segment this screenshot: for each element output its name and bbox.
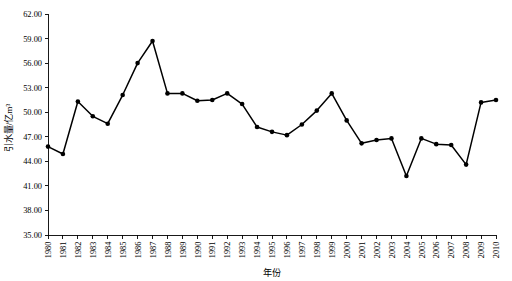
x-tick-label: 2005	[418, 242, 427, 259]
data-point-marker	[285, 133, 290, 138]
y-axis: 35.0038.0041.0044.0047.0050.0053.0056.00…	[23, 10, 48, 240]
x-tick-label: 1990	[194, 242, 203, 259]
x-tick-label: 1999	[328, 242, 337, 259]
x-tick-label: 2006	[432, 242, 441, 259]
data-point-marker	[344, 118, 349, 123]
x-tick-label: 1991	[208, 242, 217, 259]
data-point-marker	[225, 91, 230, 96]
y-tick-label: 53.00	[23, 84, 42, 93]
data-point-marker	[315, 108, 320, 113]
data-point-marker	[46, 144, 51, 149]
data-point-marker	[150, 39, 155, 44]
data-point-marker	[120, 93, 125, 98]
data-point-marker	[449, 143, 454, 148]
y-tick-label: 62.00	[23, 10, 42, 19]
data-point-marker	[479, 100, 484, 105]
x-tick-label: 2004	[403, 241, 412, 259]
data-point-marker	[329, 91, 334, 96]
x-tick-label: 1989	[179, 242, 188, 259]
y-tick-label: 59.00	[23, 35, 42, 44]
data-point-marker	[404, 174, 409, 179]
data-point-marker	[434, 142, 439, 147]
x-axis-title: 年份	[263, 267, 281, 278]
data-point-marker	[359, 141, 364, 146]
x-tick-label: 1995	[268, 242, 277, 259]
data-point-marker	[494, 98, 499, 103]
x-tick-label: 2000	[343, 242, 352, 259]
data-point-marker	[165, 91, 170, 96]
data-point-marker	[135, 61, 140, 66]
x-tick-label: 2002	[373, 242, 382, 259]
x-tick-label: 1980	[44, 242, 53, 259]
x-tick-label: 2009	[477, 242, 486, 259]
x-tick-label: 2007	[447, 242, 456, 259]
x-tick-label: 2010	[492, 242, 501, 259]
data-point-marker	[240, 102, 245, 107]
line-chart: 35.0038.0041.0044.0047.0050.0053.0056.00…	[0, 0, 512, 281]
x-tick-label: 1986	[134, 242, 143, 259]
x-tick-label: 2001	[358, 242, 367, 259]
data-point-marker	[76, 99, 81, 104]
x-tick-label: 1996	[283, 242, 292, 259]
data-point-marker	[374, 138, 379, 143]
data-point-marker	[180, 91, 185, 96]
chart-container: 35.0038.0041.0044.0047.0050.0053.0056.00…	[0, 0, 512, 281]
x-tick-label: 1988	[164, 242, 173, 259]
data-point-marker	[105, 121, 110, 126]
x-axis: 1980198119821983198419851986198719881989…	[44, 235, 501, 258]
x-tick-label: 1994	[253, 241, 262, 259]
y-tick-label: 50.00	[23, 108, 42, 117]
data-series-line	[46, 39, 499, 179]
y-tick-label: 38.00	[23, 206, 42, 215]
y-tick-label: 35.00	[23, 231, 42, 240]
x-tick-label: 1987	[149, 242, 158, 259]
data-point-marker	[210, 98, 215, 103]
data-point-marker	[91, 114, 96, 119]
x-tick-label: 1985	[119, 242, 128, 259]
y-tick-label: 47.00	[23, 133, 42, 142]
data-point-marker	[255, 125, 260, 130]
x-tick-label: 1993	[238, 242, 247, 259]
x-tick-label: 1998	[313, 242, 322, 259]
data-point-marker	[464, 162, 469, 167]
y-axis-title: 引水量/亿m³	[3, 104, 14, 153]
x-tick-label: 1984	[104, 241, 113, 259]
series-polyline	[48, 41, 496, 176]
x-tick-label: 2008	[462, 242, 471, 259]
y-tick-label: 44.00	[23, 157, 42, 166]
y-tick-label: 56.00	[23, 59, 42, 68]
x-tick-label: 1981	[59, 242, 68, 259]
data-point-marker	[61, 152, 66, 157]
data-point-marker	[389, 136, 394, 141]
x-tick-label: 1983	[89, 242, 98, 259]
data-point-marker	[419, 136, 424, 141]
data-point-marker	[195, 98, 200, 103]
x-tick-label: 2003	[388, 242, 397, 259]
x-tick-label: 1997	[298, 242, 307, 259]
x-tick-label: 1982	[74, 242, 83, 259]
x-tick-label: 1992	[223, 242, 232, 259]
data-point-marker	[300, 122, 305, 127]
data-point-marker	[270, 130, 275, 135]
y-tick-label: 41.00	[23, 182, 42, 191]
